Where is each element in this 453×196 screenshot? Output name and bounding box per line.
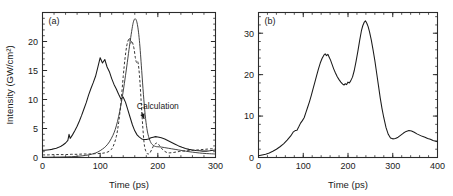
y-tick-label: 20 (244, 70, 254, 80)
y-tick-label: 20 (28, 37, 38, 47)
series-experiment-noisy (43, 58, 216, 151)
y-tick-label: 10 (28, 95, 38, 105)
x-tick-label: 300 (385, 161, 400, 171)
x-tick-label: 200 (150, 161, 165, 171)
x-axis-title: Time (ps) (328, 179, 368, 190)
series-measured-intensity (259, 21, 438, 156)
x-axis-title: Time (ps) (109, 179, 149, 190)
y-tick-label: 30 (244, 29, 254, 39)
panel-b: 01002003004000102030Time (ps)(b) (244, 13, 445, 190)
x-tick-label: 400 (430, 161, 445, 171)
x-tick-label: 0 (256, 161, 261, 171)
y-tick-label: 0 (33, 153, 38, 163)
panel-label: (a) (49, 16, 60, 26)
figure-container: 010020030005101520Time (ps)Intensity (GW… (0, 0, 453, 196)
panel-a: 010020030005101520Time (ps)Intensity (GW… (4, 13, 223, 190)
y-tick-label: 0 (249, 153, 254, 163)
annotation-label: Calculation (137, 101, 179, 111)
x-tick-label: 100 (296, 161, 311, 171)
x-tick-label: 300 (208, 161, 223, 171)
x-tick-label: 100 (93, 161, 108, 171)
axes-frame (259, 13, 438, 158)
x-tick-label: 0 (40, 161, 45, 171)
x-tick-label: 200 (340, 161, 355, 171)
y-axis-title: Intensity (GW/cm²) (4, 45, 15, 124)
y-tick-label: 15 (28, 66, 38, 76)
panel-label: (b) (265, 16, 276, 26)
y-tick-label: 5 (33, 124, 38, 134)
y-tick-label: 10 (244, 111, 254, 121)
figure-svg: 010020030005101520Time (ps)Intensity (GW… (0, 0, 453, 196)
